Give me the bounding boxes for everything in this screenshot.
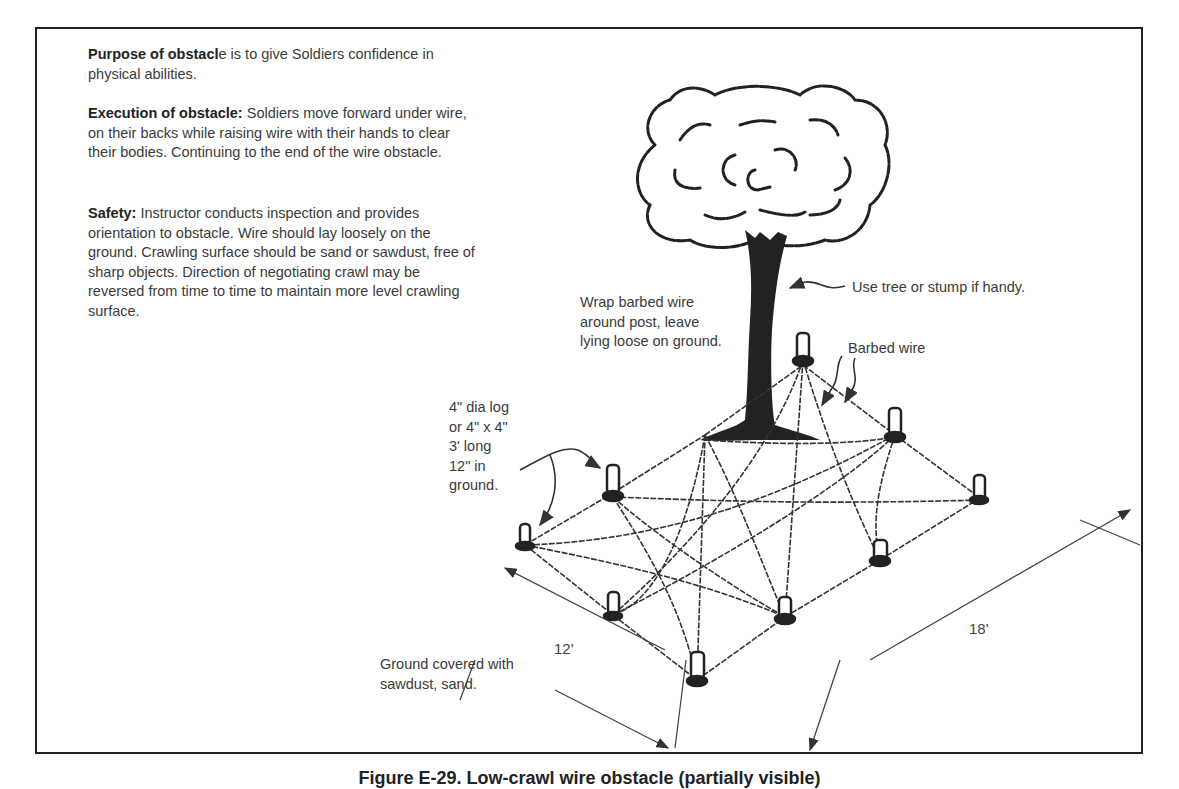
barbed-wire-leader-1 bbox=[822, 356, 842, 405]
post-far-right bbox=[970, 475, 988, 504]
dim-18-line-a bbox=[870, 510, 1130, 660]
barbed-wire-leader-2 bbox=[845, 358, 855, 402]
post-spec-label: 4" dia log or 4" x 4" 3' long 12" in gro… bbox=[449, 398, 509, 496]
post-right-upper bbox=[885, 408, 905, 442]
post-bottom bbox=[687, 652, 707, 686]
ground-label: Ground covered with sawdust, sand. bbox=[380, 655, 514, 694]
barbed-wire-label: Barbed wire bbox=[848, 339, 925, 359]
post-mid-right bbox=[870, 540, 890, 566]
dim-12-line-b bbox=[675, 660, 686, 748]
post-leader-1 bbox=[520, 449, 600, 470]
figure-caption: Figure E-29. Low-crawl wire obstacle (pa… bbox=[0, 768, 1179, 789]
tree-leader bbox=[790, 282, 845, 288]
post-top bbox=[793, 333, 813, 366]
tree-canopy bbox=[638, 86, 890, 248]
post-center-bottom bbox=[775, 597, 795, 624]
dim-18-line-b bbox=[810, 660, 840, 750]
wrap-label: Wrap barbed wire around post, leave lyin… bbox=[580, 293, 722, 352]
dim-18-label: 18' bbox=[969, 620, 989, 637]
dim-18-extension bbox=[1080, 520, 1140, 545]
dim-12-line-c bbox=[555, 690, 668, 748]
dim-12-line-a bbox=[505, 568, 665, 650]
post-left-mid bbox=[603, 465, 623, 501]
dim-12-label: 12' bbox=[554, 640, 574, 657]
tree-label: Use tree or stump if handy. bbox=[852, 278, 1025, 298]
post-far-left bbox=[516, 524, 534, 550]
post-left-lower bbox=[604, 592, 622, 620]
post-leader-2 bbox=[540, 455, 555, 525]
